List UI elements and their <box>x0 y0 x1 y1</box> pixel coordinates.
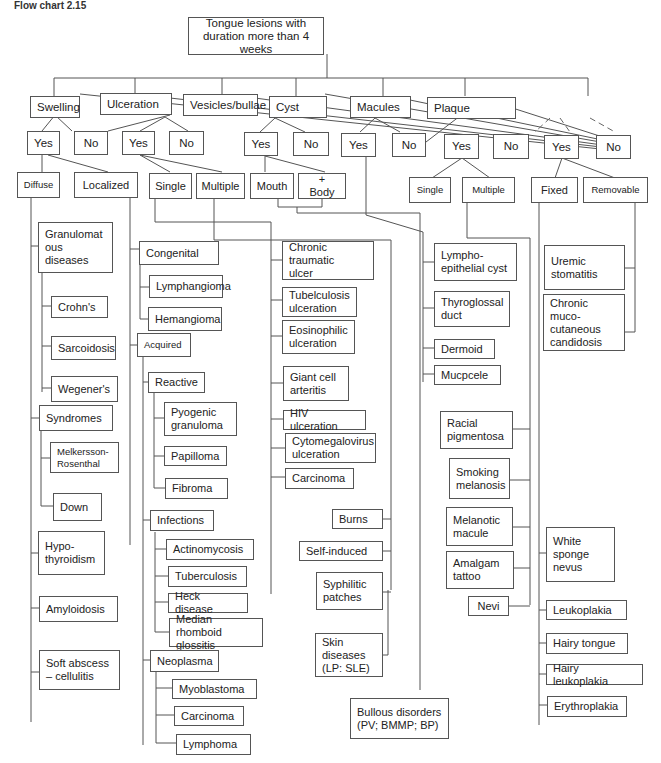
localized-item-congenital: Congenital <box>139 241 219 265</box>
single-item-tuberculosis-ulceration: Tubelculosis ulceration <box>282 287 357 317</box>
ulceration-single: Single <box>149 173 192 199</box>
category-cyst: Cyst <box>269 96 327 118</box>
swelling-diffuse: Diffuse <box>17 172 60 198</box>
multiple-item-syphilitic: Syphilitic patches <box>316 572 383 610</box>
single-item-giant-cell: Giant cell arteritis <box>283 366 349 401</box>
multiple-item-skin-diseases: Skin diseases (LP: SLE) <box>315 633 383 677</box>
macules-item-nevi: Nevi <box>468 596 509 616</box>
diffuse-item-melkersson: Melkersson- Rosenthal <box>50 442 119 473</box>
vesicles-mouth: Mouth <box>250 173 294 199</box>
macules-item-amalgam-tattoo: Amalgam tattoo <box>446 551 514 589</box>
fixed-item-erythroplakia: Erythroplakia <box>547 696 627 717</box>
swelling-localized: Localized <box>74 172 138 198</box>
diffuse-item-wegeners: Wegener's <box>51 376 118 402</box>
localized-item-neoplasma: Neoplasma <box>150 650 219 672</box>
diffuse-item-granulomatous: Granulomat ous diseases <box>38 222 113 273</box>
localized-item-fibroma: Fibroma <box>165 478 228 499</box>
ulceration-multiple: Multiple <box>196 173 245 199</box>
category-swelling: Swelling <box>30 96 80 118</box>
single-item-hiv: HIV ulceration <box>283 410 366 430</box>
localized-item-actinomycosis: Actinomycosis <box>166 539 254 560</box>
single-item-carcinoma: Carcinoma <box>285 468 354 489</box>
plaque-fixed: Fixed <box>531 177 578 203</box>
localized-item-hemangioma: Hemangioma <box>148 307 222 331</box>
macules-yes: Yes <box>444 134 479 159</box>
vesicles-body: + Body <box>298 173 346 199</box>
vesicles-item-bullous: Bullous disorders (PV; BMMP; BP) <box>350 698 449 739</box>
removable-item-chronic-mucocutaneous: Chronic muco- cutaneous candidosis <box>543 294 625 351</box>
localized-item-lymphangioma: Lymphangioma <box>149 275 223 298</box>
plaque-removable: Removable <box>583 177 648 203</box>
localized-item-pyogenic-granuloma: Pyogenic granuloma <box>164 402 237 436</box>
category-macules: Macules <box>350 96 411 118</box>
localized-item-lymphoma: Lymphoma <box>176 734 251 755</box>
removable-item-uremic-stomatitis: Uremic stomatitis <box>544 245 625 290</box>
category-ulceration: Ulceration <box>100 93 172 115</box>
multiple-item-self-induced: Self-induced <box>299 541 383 561</box>
localized-item-median-rhomboid: Median rhomboid glossitis <box>169 618 263 647</box>
localized-item-tuberculosis: Tuberculosis <box>168 566 247 587</box>
shared-no: No <box>596 135 631 159</box>
diffuse-item-amyloidosis: Amyloidosis <box>39 596 118 622</box>
vesicles-yes: Yes <box>244 132 278 156</box>
diffuse-item-crohns: Crohn's <box>51 296 108 318</box>
diffuse-item-down: Down <box>53 493 102 521</box>
cyst-item-dermoid: Dermoid <box>434 339 495 359</box>
fixed-item-hairy-tongue: Hairy tongue <box>546 633 628 654</box>
cyst-item-lymphoepithelial: Lympho- epithelial cyst <box>434 243 517 281</box>
ulceration-no: No <box>169 131 204 155</box>
multiple-item-burns: Burns <box>332 509 383 529</box>
macules-item-melanotic-macule: Melanotic macule <box>446 507 513 546</box>
diffuse-item-soft-abscess: Soft abscess – cellulitis <box>39 650 120 690</box>
localized-item-myoblastoma: Myoblastoma <box>172 679 257 699</box>
localized-item-papilloma: Papilloma <box>164 446 227 466</box>
single-item-cytomegalovirus: Cytomegalovirus ulceration <box>285 433 376 463</box>
fixed-item-leukoplakia: Leukoplakia <box>546 600 627 620</box>
localized-item-acquired: Acquired <box>137 333 191 357</box>
category-vesicles: Vesicles/bullae <box>183 94 258 116</box>
cyst-item-thyroglossal: Thyroglossal duct <box>434 291 510 327</box>
cyst-yes: Yes <box>341 133 376 157</box>
plaque-yes: Yes <box>544 135 579 159</box>
vesicles-no: No <box>293 132 329 156</box>
macules-item-racial-pigmentosa: Racial pigmentosa <box>440 411 513 449</box>
category-plaque: Plaque <box>427 97 516 119</box>
single-item-chronic-traumatic: Chronic traumatic ulcer <box>282 241 374 280</box>
swelling-no: No <box>74 131 108 155</box>
figure-caption: Flow chart 2.15 <box>14 0 86 11</box>
macules-single: Single <box>409 177 451 203</box>
diffuse-item-sarcoidosis: Sarcoidosis <box>51 336 116 360</box>
fixed-item-white-sponge-nevus: White sponge nevus <box>546 527 615 582</box>
macules-no: No <box>493 134 529 159</box>
diffuse-item-hypothyroidism: Hypo- thyroidism <box>38 531 105 575</box>
localized-item-carcinoma: Carcinoma <box>174 706 244 726</box>
localized-item-reactive: Reactive <box>148 372 205 393</box>
macules-item-smoking-melanosis: Smoking melanosis <box>449 458 510 499</box>
swelling-yes: Yes <box>27 131 60 155</box>
cyst-item-mucocele: Mucpcele <box>434 365 501 385</box>
localized-item-heck-disease: Heck disease <box>168 593 248 613</box>
macules-multiple: Multiple <box>462 177 515 203</box>
single-item-eosinophilic: Eosinophilic ulceration <box>282 320 355 354</box>
diffuse-item-syndromes: Syndromes <box>39 405 113 431</box>
localized-item-infections: Infections <box>150 510 214 531</box>
cyst-no: No <box>392 133 426 157</box>
fixed-item-hairy-leukoplakia: Hairy leukoplakia <box>546 664 643 685</box>
root-node: Tongue lesions with duration more than 4… <box>188 17 324 55</box>
ulceration-yes: Yes <box>122 131 155 155</box>
